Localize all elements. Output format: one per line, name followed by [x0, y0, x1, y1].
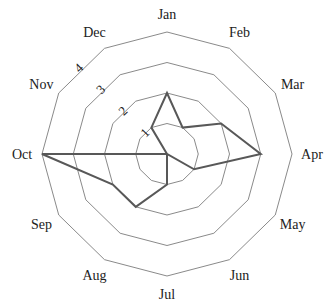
category-label-apr: Apr	[301, 147, 323, 162]
category-label-mar: Mar	[281, 77, 305, 92]
category-label-may: May	[280, 217, 306, 232]
category-label-aug: Aug	[82, 268, 106, 283]
category-label-dec: Dec	[83, 25, 106, 40]
category-label-jun: Jun	[230, 268, 249, 283]
radial-tick-label: 3	[93, 82, 108, 97]
category-label-oct: Oct	[12, 147, 32, 162]
radial-tick-label: 2	[115, 103, 130, 118]
radar-chart: 1234 JanFebMarAprMayJunJulAugSepOctNovDe…	[0, 0, 333, 306]
category-label-jan: Jan	[158, 7, 177, 22]
category-label-feb: Feb	[229, 25, 250, 40]
category-label-nov: Nov	[29, 77, 53, 92]
category-label-jul: Jul	[159, 287, 175, 302]
category-label-sep: Sep	[31, 217, 52, 232]
radial-tick-label: 1	[137, 125, 152, 140]
